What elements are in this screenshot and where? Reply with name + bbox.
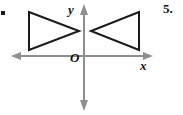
coordinate-plane-figure: y x O 5.: [0, 0, 183, 115]
x-axis: [11, 52, 153, 60]
problem-number: 5.: [163, 2, 173, 15]
x-axis-left-arrowhead: [11, 52, 21, 60]
left-triangle: [29, 12, 79, 50]
y-axis-bottom-arrowhead: [80, 100, 88, 111]
y-axis-top-arrowhead: [80, 4, 88, 15]
right-triangle: [91, 12, 139, 50]
y-axis-label: y: [68, 3, 74, 16]
origin-label: O: [70, 51, 79, 64]
x-axis-label: x: [140, 59, 147, 72]
y-axis: [80, 4, 88, 111]
geometry-diagram-svg: [0, 0, 183, 115]
